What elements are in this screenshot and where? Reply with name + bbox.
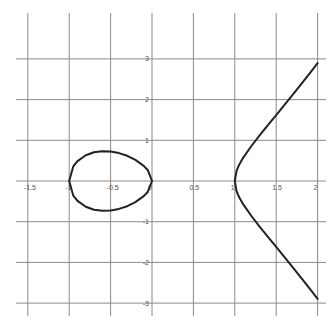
y-tick-label: 2: [145, 96, 149, 103]
x-tick-label: 1.5: [272, 184, 282, 191]
plot-area: -1.5-1-0.500.511.52-3-2-1123: [0, 0, 335, 328]
x-tick-label: 1: [231, 184, 235, 191]
x-tick-label: -1.5: [24, 184, 36, 191]
y-tick-label: -3: [143, 300, 149, 307]
y-tick-label: -2: [143, 259, 149, 266]
grid: [16, 13, 326, 316]
y-tick-label: 1: [145, 137, 149, 144]
x-tick-label: -0.5: [107, 184, 119, 191]
y-tick-label: -1: [143, 218, 149, 225]
y-tick-label: 3: [145, 55, 149, 62]
x-tick-label: 2: [314, 184, 318, 191]
x-tick-label: 0.5: [189, 184, 199, 191]
